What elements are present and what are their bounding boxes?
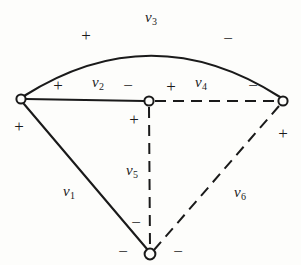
bottom-vertex-node bbox=[145, 249, 156, 260]
signed-graph-figure: v1 v2 v3 v4 v5 v6 + − + − + − + + + − − … bbox=[0, 0, 301, 265]
edge-label-v2-text: v bbox=[92, 74, 99, 90]
edge-label-v2: v2 bbox=[92, 75, 104, 92]
edge-label-v3: v3 bbox=[145, 10, 157, 27]
edge-label-v4-text: v bbox=[195, 74, 202, 90]
graph-canvas bbox=[0, 0, 301, 265]
right-vertex-node bbox=[278, 96, 287, 105]
edge-v5-line bbox=[149, 107, 150, 248]
edge-label-v5-text: v bbox=[126, 162, 133, 178]
edge-label-v1-text: v bbox=[63, 183, 70, 199]
edge-label-v3-text: v bbox=[145, 9, 152, 25]
edge-label-v1-sub: 1 bbox=[70, 189, 75, 200]
edge-label-v6: v6 bbox=[234, 185, 246, 202]
sign-v3-right: − bbox=[223, 30, 233, 47]
sign-v5-bottom: − bbox=[131, 214, 141, 231]
sign-v1-top: + bbox=[14, 118, 24, 135]
edge-label-v2-sub: 2 bbox=[99, 80, 104, 91]
sign-v6-bottom: − bbox=[173, 243, 183, 260]
center-vertex-node bbox=[144, 96, 153, 105]
sign-v2-left: + bbox=[53, 77, 63, 94]
sign-v4-right: − bbox=[248, 77, 258, 94]
sign-v4-left: + bbox=[166, 78, 176, 95]
edge-label-v6-text: v bbox=[234, 184, 241, 200]
sign-v2-right: − bbox=[123, 77, 133, 94]
edge-label-v6-sub: 6 bbox=[241, 190, 246, 201]
sign-v6-top: + bbox=[278, 125, 288, 142]
left-vertex-node bbox=[16, 94, 25, 103]
edge-v6-line bbox=[154, 106, 279, 250]
edge-label-v5-sub: 5 bbox=[133, 168, 138, 179]
edge-label-v5: v5 bbox=[126, 163, 138, 180]
edge-label-v4-sub: 4 bbox=[202, 80, 207, 91]
edge-label-v3-sub: 3 bbox=[152, 15, 157, 26]
edge-label-v4: v4 bbox=[195, 75, 207, 92]
sign-v1-bottom: − bbox=[118, 243, 128, 260]
edge-v2-line bbox=[26, 99, 144, 101]
sign-v3-left: + bbox=[81, 27, 91, 44]
edge-label-v1: v1 bbox=[63, 184, 75, 201]
sign-v5-top: + bbox=[129, 111, 139, 128]
